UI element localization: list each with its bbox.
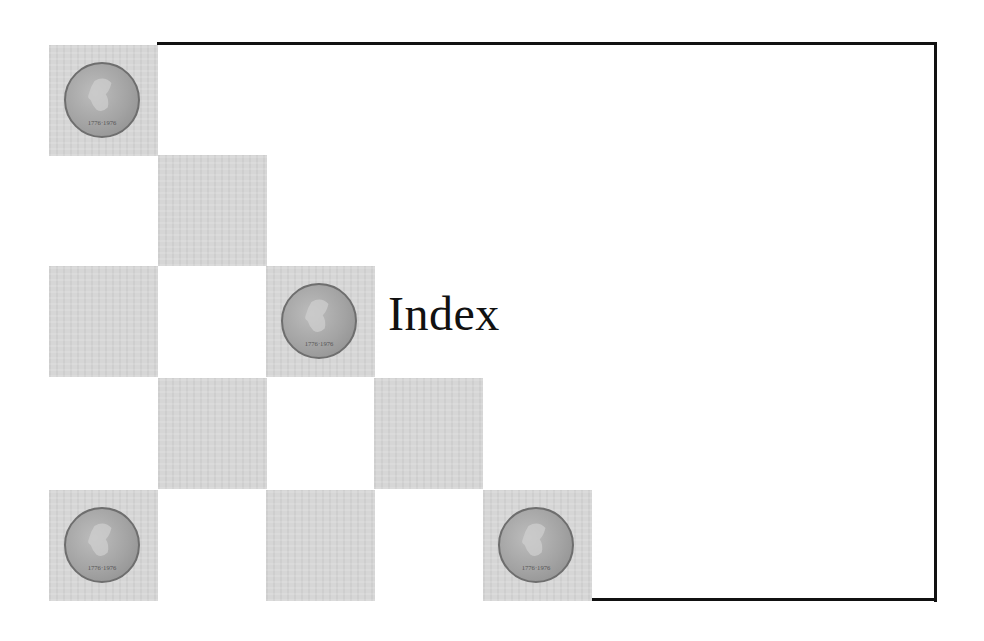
- svg-text:1776·1976: 1776·1976: [88, 119, 117, 126]
- half-dollar-coin-icon: 1776·1976: [281, 283, 357, 359]
- half-dollar-coin-icon: 1776·1976: [64, 62, 140, 138]
- checker-cell: 1776·1976: [49, 490, 158, 601]
- svg-text:1776·1976: 1776·1976: [522, 564, 551, 571]
- checker-cell: [374, 378, 483, 489]
- checker-cell: [49, 266, 158, 377]
- checker-cell: [266, 490, 375, 601]
- slide-title: Index: [388, 290, 500, 338]
- half-dollar-coin-icon: 1776·1976: [64, 507, 140, 583]
- svg-text:1776·1976: 1776·1976: [88, 564, 117, 571]
- checker-cell: [158, 155, 267, 266]
- svg-text:1776·1976: 1776·1976: [305, 340, 334, 347]
- half-dollar-coin-icon: 1776·1976: [498, 507, 574, 583]
- checker-cell: 1776·1976: [266, 266, 375, 377]
- checker-cell: [158, 378, 267, 489]
- slide-frame-bottom-border: [592, 598, 937, 601]
- checker-cell: 1776·1976: [483, 490, 592, 601]
- checker-cell: 1776·1976: [49, 45, 158, 156]
